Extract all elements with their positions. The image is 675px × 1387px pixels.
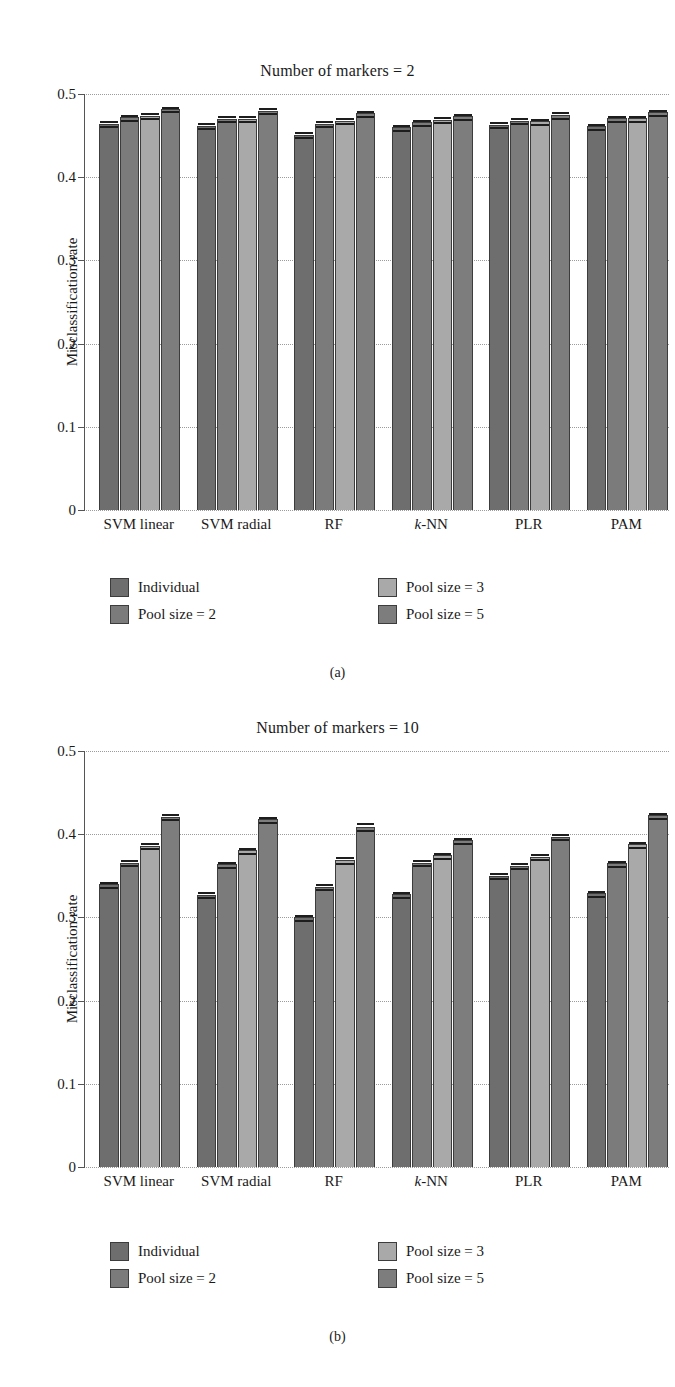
y-tick-label: 0.1 <box>57 1075 76 1092</box>
bar <box>161 109 181 510</box>
error-bar <box>413 860 431 867</box>
bar <box>607 863 627 1167</box>
bar-group <box>99 751 180 1167</box>
error-bar <box>316 121 334 128</box>
legend-swatch <box>110 1269 129 1288</box>
y-tick-label: 0 <box>69 502 77 519</box>
legend-item: Pool size = 2 <box>110 605 216 624</box>
legend-label: Pool size = 3 <box>406 579 484 596</box>
y-tick-mark <box>78 94 85 95</box>
legend-label: Pool size = 2 <box>138 1270 216 1287</box>
bar <box>197 126 217 510</box>
bar <box>356 827 376 1167</box>
x-axis-label: PAM <box>611 516 642 533</box>
bar <box>530 121 550 510</box>
error-bar <box>588 124 606 131</box>
y-tick-label: 0.3 <box>57 909 76 926</box>
bar <box>433 855 453 1167</box>
bar <box>258 819 278 1167</box>
bar <box>489 876 509 1167</box>
error-bar <box>357 823 375 832</box>
error-bar <box>608 861 626 868</box>
bar <box>258 111 278 510</box>
chart-panel-a: Number of markers = 2 Misclassification … <box>0 0 675 660</box>
error-bar <box>531 854 549 861</box>
bar <box>238 119 258 510</box>
y-tick-label: 0.5 <box>57 86 76 103</box>
bar <box>120 117 140 510</box>
error-bar <box>629 116 647 123</box>
bar <box>99 884 119 1167</box>
legend-swatch <box>378 578 397 597</box>
legend-swatch <box>378 1269 397 1288</box>
error-bar <box>336 118 354 125</box>
bar <box>489 125 509 510</box>
bar-group <box>392 751 473 1167</box>
bar <box>628 844 648 1167</box>
legend-item: Pool size = 3 <box>378 578 484 597</box>
bar <box>99 124 119 510</box>
legend-label: Pool size = 3 <box>406 1243 484 1260</box>
y-tick-mark <box>78 1167 85 1168</box>
bar <box>315 124 335 510</box>
bar <box>551 837 571 1167</box>
bar <box>453 116 473 510</box>
x-axis-label: PAM <box>611 1173 642 1190</box>
error-bar <box>608 116 626 123</box>
bar <box>335 860 355 1167</box>
error-bar <box>121 115 139 122</box>
x-axis-label: SVM radial <box>201 1173 271 1190</box>
error-bar <box>434 117 452 124</box>
bar-group <box>489 94 570 510</box>
chart-panel-b: Number of markers = 10 Misclassification… <box>0 700 675 1387</box>
y-tick-mark <box>78 344 85 345</box>
y-tick-mark <box>78 427 85 428</box>
y-tick-label: 0.5 <box>57 743 76 760</box>
panel-caption-a: (a) <box>0 665 675 681</box>
y-tick-label: 0.4 <box>57 169 76 186</box>
axis-area-b <box>84 751 669 1167</box>
legend-item: Pool size = 2 <box>110 1269 216 1288</box>
legend-label: Pool size = 5 <box>406 606 484 623</box>
chart-title-a: Number of markers = 2 <box>0 62 675 80</box>
error-bar <box>100 121 118 128</box>
legend-swatch <box>378 1242 397 1261</box>
bar <box>412 863 432 1168</box>
bar <box>510 121 530 510</box>
bar-group <box>392 94 473 510</box>
y-tick-label: 0.1 <box>57 418 76 435</box>
grid-line <box>86 510 669 511</box>
bar <box>356 113 376 510</box>
y-tick-mark <box>78 834 85 835</box>
bar <box>140 116 160 510</box>
bar-group <box>197 94 278 510</box>
bar-group <box>294 94 375 510</box>
legend-swatch <box>378 605 397 624</box>
bar-group <box>99 94 180 510</box>
bar-group <box>587 751 668 1167</box>
x-axis-label: k-NN <box>415 516 448 533</box>
legend-swatch <box>110 578 129 597</box>
bar <box>120 863 140 1168</box>
legend-swatch <box>110 605 129 624</box>
bar <box>140 846 160 1167</box>
legend-label: Individual <box>138 579 200 596</box>
x-axis-label: SVM linear <box>104 516 174 533</box>
error-bar <box>141 843 159 850</box>
error-bar <box>198 892 216 899</box>
bar <box>648 112 668 510</box>
legend-a: IndividualPool size = 2Pool size = 3Pool… <box>0 578 675 634</box>
x-axis-label: PLR <box>515 516 543 533</box>
error-bar <box>649 813 667 820</box>
error-bar <box>413 120 431 127</box>
error-bar <box>239 848 257 855</box>
y-axis-tick-labels-a: 00.10.20.30.40.5 <box>30 94 76 510</box>
y-axis-tick-labels-b: 00.10.20.30.40.5 <box>30 751 76 1167</box>
error-bar <box>552 112 570 121</box>
bars-container-b <box>85 751 669 1167</box>
x-axis-label: SVM radial <box>201 516 271 533</box>
error-bar <box>100 882 118 889</box>
legend-item: Pool size = 5 <box>378 605 484 624</box>
x-axis-label: k-NN <box>415 1173 448 1190</box>
bar <box>217 119 237 510</box>
